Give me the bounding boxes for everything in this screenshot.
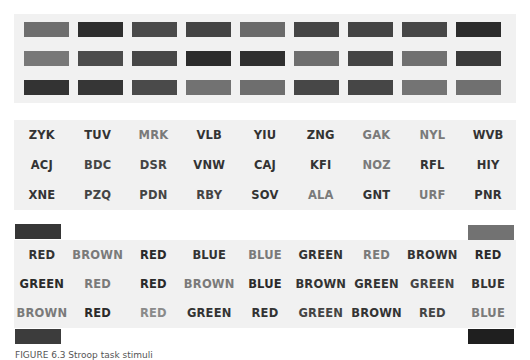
color-word: BLUE	[471, 277, 505, 291]
letter-string: YIU	[254, 128, 277, 142]
letter-string: NYL	[419, 128, 445, 142]
letter-string: RFL	[420, 158, 445, 172]
color-word: GREEN	[298, 248, 343, 262]
letter-string: RBY	[196, 188, 222, 202]
color-bar	[348, 22, 393, 37]
letter-string: PZQ	[84, 188, 111, 202]
color-word: GREEN	[187, 306, 232, 320]
letter-string: CAJ	[254, 158, 276, 172]
color-word: BROWN	[295, 277, 346, 291]
letter-strings-grid: ZYKTUVMRKVLBYIUZNGGAKNYLWVBACJBDCDSRVNWC…	[14, 120, 516, 210]
color-bars-grid	[24, 22, 501, 95]
letter-string: WVB	[473, 128, 504, 142]
color-bar	[240, 80, 285, 95]
letter-string: KFI	[310, 158, 332, 172]
color-word: BROWN	[17, 306, 68, 320]
color-bar	[240, 22, 285, 37]
color-bar	[294, 22, 339, 37]
color-word: GREEN	[20, 277, 65, 291]
color-word: RED	[84, 277, 111, 291]
color-bar	[132, 51, 177, 66]
color-bar	[186, 51, 231, 66]
color-bar	[132, 22, 177, 37]
letter-string: ACJ	[31, 158, 53, 172]
color-word: RED	[140, 277, 167, 291]
color-word: RED	[140, 306, 167, 320]
letter-string: PNR	[474, 188, 502, 202]
color-word: RED	[140, 248, 167, 262]
color-word: BLUE	[471, 306, 505, 320]
color-bar	[240, 51, 285, 66]
letter-string: ZNG	[307, 128, 335, 142]
color-bar	[24, 51, 69, 66]
figure-caption: FIGURE 6.3 Stroop task stimuli	[15, 350, 153, 360]
corner-bar-top-right	[468, 225, 514, 240]
letter-string: DSR	[140, 158, 167, 172]
color-bars-panel	[14, 14, 516, 103]
letter-string: HIY	[477, 158, 500, 172]
letter-string: SOV	[251, 188, 278, 202]
color-word: RED	[363, 248, 390, 262]
color-word: BLUE	[192, 248, 226, 262]
color-bar	[24, 80, 69, 95]
letter-string: PDN	[139, 188, 167, 202]
letter-string: GAK	[363, 128, 391, 142]
color-bar	[186, 22, 231, 37]
color-bar	[402, 51, 447, 66]
color-word: RED	[28, 248, 55, 262]
color-bar	[24, 22, 69, 37]
letter-string: VLB	[196, 128, 222, 142]
color-bar	[186, 80, 231, 95]
color-bar	[132, 80, 177, 95]
corner-bar-bottom-left	[15, 329, 61, 344]
letter-string: TUV	[84, 128, 111, 142]
color-bar	[456, 51, 501, 66]
letter-string: XNE	[28, 188, 55, 202]
color-word: RED	[419, 306, 446, 320]
color-word: BLUE	[248, 248, 282, 262]
color-word: RED	[475, 248, 502, 262]
color-word: GREEN	[298, 306, 343, 320]
letter-string: MRK	[139, 128, 169, 142]
letter-string: ALA	[308, 188, 334, 202]
color-word: BROWN	[351, 306, 402, 320]
letter-string: GNT	[363, 188, 391, 202]
color-word: GREEN	[354, 277, 399, 291]
letter-string: ZYK	[29, 128, 55, 142]
color-word: BLUE	[248, 277, 282, 291]
color-words-grid: REDBROWNREDBLUEBLUEGREENREDBROWNREDGREEN…	[14, 240, 516, 328]
color-bar	[78, 22, 123, 37]
color-word: RED	[84, 306, 111, 320]
color-bar	[348, 80, 393, 95]
color-bar	[294, 51, 339, 66]
letter-string: URF	[419, 188, 446, 202]
color-word: BROWN	[184, 277, 235, 291]
color-bar	[294, 80, 339, 95]
corner-bar-bottom-right	[468, 329, 514, 344]
color-words-panel: REDBROWNREDBLUEBLUEGREENREDBROWNREDGREEN…	[14, 240, 516, 328]
color-word: BROWN	[72, 248, 123, 262]
color-word: BROWN	[407, 248, 458, 262]
color-bar	[78, 51, 123, 66]
letter-strings-panel: ZYKTUVMRKVLBYIUZNGGAKNYLWVBACJBDCDSRVNWC…	[14, 120, 516, 210]
letter-string: BDC	[84, 158, 111, 172]
color-bar	[402, 22, 447, 37]
letter-string: VNW	[193, 158, 225, 172]
color-word: RED	[252, 306, 279, 320]
color-bar	[456, 80, 501, 95]
color-bar	[78, 80, 123, 95]
color-bar	[456, 22, 501, 37]
color-bar	[402, 80, 447, 95]
letter-string: NOZ	[362, 158, 390, 172]
color-word: GREEN	[410, 277, 455, 291]
color-bar	[348, 51, 393, 66]
corner-bar-top-left	[15, 224, 61, 239]
